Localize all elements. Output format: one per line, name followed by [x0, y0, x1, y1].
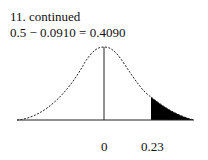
label-z-value: 0.23: [141, 140, 164, 153]
label-zero: 0: [101, 140, 108, 153]
shaded-tail: [151, 97, 194, 120]
normal-curve-figure: [0, 0, 208, 160]
